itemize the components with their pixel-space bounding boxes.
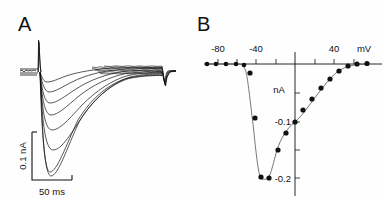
panel-b-x-axis-unit: mV (357, 43, 372, 54)
panel-b-y-ticks (295, 93, 300, 178)
panel-b: B -80 (192, 0, 384, 201)
data-point (247, 70, 252, 75)
panel-a-current-traces (40, 68, 162, 177)
data-point (309, 96, 314, 101)
panel-a-scalebars (32, 132, 72, 180)
panel-a-capacitive-transient (38, 40, 41, 72)
panel-b-x-tick-label-2: 40 (329, 43, 340, 54)
data-point (266, 175, 271, 180)
panel-a: A (0, 0, 192, 201)
data-point (318, 85, 323, 90)
panel-b-y-tick-label-0: -0.1 (275, 116, 291, 127)
data-point (224, 62, 229, 67)
data-point (345, 63, 350, 68)
data-point (283, 130, 288, 135)
panel-a-vertical-scalebar-label: 0.1 nA (17, 142, 28, 170)
panel-b-x-tick-label-1: -40 (249, 43, 263, 54)
data-point (354, 61, 359, 66)
data-point (252, 115, 257, 120)
data-point (300, 107, 305, 112)
panel-b-x-tick-label-0: -80 (211, 43, 225, 54)
panel-b-plot: -80 -40 40 mV nA -0.1 -0.2 (192, 0, 384, 201)
panel-a-horizontal-scalebar-label: 50 ms (39, 186, 65, 197)
panel-b-x-ticks (218, 59, 354, 64)
data-point (258, 174, 263, 179)
data-point (336, 68, 341, 73)
data-point (364, 61, 369, 66)
data-point (292, 119, 297, 124)
data-point (275, 147, 280, 152)
panel-a-tail-transient (162, 66, 176, 86)
panel-b-y-axis-unit: nA (273, 84, 285, 95)
panel-b-y-tick-label-1: -0.2 (275, 173, 291, 184)
data-point (205, 62, 210, 67)
data-point (327, 76, 332, 81)
panel-a-baseline (20, 69, 38, 75)
data-point (242, 63, 247, 68)
data-point (234, 62, 239, 67)
panel-a-plot: 0.1 nA 50 ms (0, 0, 192, 201)
data-point (214, 62, 219, 67)
figure-root: A (0, 0, 384, 201)
